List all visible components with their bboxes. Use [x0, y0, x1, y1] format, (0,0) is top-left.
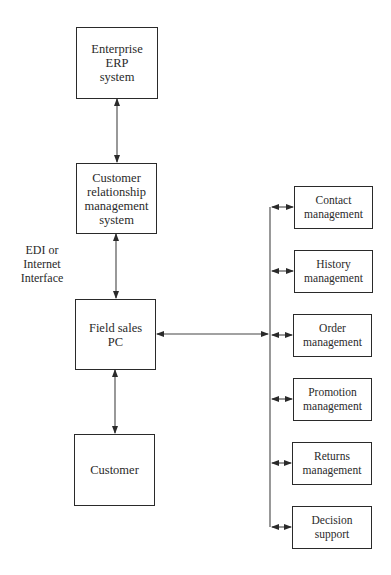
returns-management-box: Returns management: [292, 442, 372, 485]
crm-system-label: Customer relationship management system: [85, 171, 149, 227]
promotion-management-box: Promotion management: [293, 378, 372, 421]
returns-management-label: Returns management: [303, 450, 362, 477]
erp-system-label: Enterprise ERP system: [91, 42, 142, 84]
erp-system-box: Enterprise ERP system: [76, 27, 158, 99]
history-management-box: History management: [294, 250, 373, 293]
field-sales-pc-label: Field sales PC: [89, 321, 142, 349]
customer-box: Customer: [74, 434, 155, 506]
contact-management-box: Contact management: [294, 186, 373, 229]
customer-label: Customer: [90, 463, 139, 477]
order-management-label: Order management: [303, 322, 362, 349]
field-sales-pc-box: Field sales PC: [75, 299, 156, 370]
decision-support-box: Decision support: [292, 506, 372, 549]
contact-management-label: Contact management: [304, 194, 363, 221]
decision-support-label: Decision support: [312, 514, 353, 541]
crm-system-box: Customer relationship management system: [76, 163, 157, 234]
history-management-label: History management: [304, 258, 363, 285]
edi-interface-label: EDI or Internet Interface: [14, 243, 70, 285]
order-management-box: Order management: [293, 314, 372, 357]
promotion-management-label: Promotion management: [303, 386, 362, 413]
